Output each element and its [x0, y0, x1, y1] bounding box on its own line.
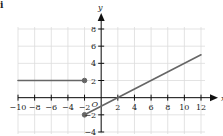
x-tick-label: 10	[179, 103, 189, 112]
y-tick-label: −2	[84, 111, 96, 120]
x-tick-label: 12	[196, 103, 206, 112]
axis-labels: −10−8−6−4−2246810128642−2−4xyO	[10, 3, 223, 136]
x-tick-label: −8	[29, 103, 41, 112]
piecewise-function-graph: −10−8−6−4−2246810128642−2−4xyO	[0, 0, 223, 136]
y-tick-label: 8	[91, 25, 96, 34]
x-axis-label: x	[221, 94, 223, 103]
x-axis-arrow-icon	[210, 94, 218, 101]
x-tick-label: 2	[115, 103, 120, 112]
x-tick-label: −4	[62, 103, 74, 112]
closed-endpoint-dot	[82, 78, 87, 83]
origin-label: O	[92, 100, 99, 109]
y-tick-label: 6	[91, 42, 96, 51]
y-axis-arrow-icon	[98, 13, 105, 21]
y-tick-label: 2	[91, 77, 96, 86]
y-tick-label: −4	[84, 128, 96, 136]
x-tick-label: 4	[132, 103, 137, 112]
y-axis-label: y	[97, 3, 103, 12]
y-tick-label: 4	[91, 59, 96, 68]
x-tick-label: 8	[165, 103, 170, 112]
x-tick-label: −6	[45, 103, 57, 112]
x-tick-label: −10	[10, 103, 27, 112]
x-tick-label: 6	[149, 103, 154, 112]
